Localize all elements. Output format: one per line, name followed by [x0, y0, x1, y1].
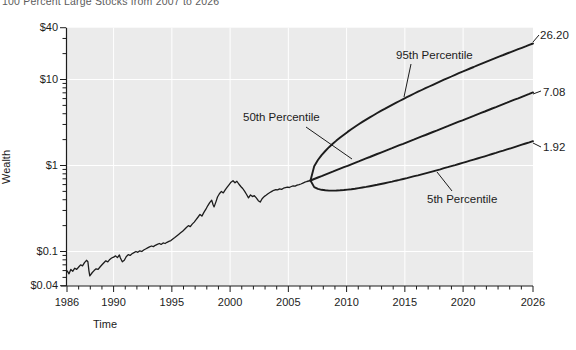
y-tick-label-10: $10	[40, 73, 58, 85]
x-tick-label-2005: 2005	[276, 296, 300, 308]
y-tick-label-1: $1	[46, 159, 58, 171]
y-tick-label-40: $40	[40, 21, 58, 33]
x-tick-label-1986: 1986	[55, 296, 79, 308]
label-5th-percentile: 5th Percentile	[427, 193, 497, 205]
x-tick-label-1990: 1990	[101, 296, 125, 308]
label-95th-percentile: 95th Percentile	[396, 49, 473, 61]
x-tick-label-2015: 2015	[393, 296, 417, 308]
y-axis-title: Wealth	[0, 137, 12, 197]
x-tick-label-2026: 2026	[521, 296, 545, 308]
end-value-50th-percentile: 7.08	[543, 86, 565, 98]
wealth-forecast-chart: 100 Percent Large Stocks from 2007 to 20…	[0, 0, 576, 350]
y-tick-label-0.04: $0.04	[30, 279, 58, 291]
y-tick-label-0.1: $0.1	[37, 245, 58, 257]
end-value-5th-percentile: 1.92	[543, 141, 565, 153]
x-tick-label-2000: 2000	[218, 296, 242, 308]
end-value-95th-percentile: 26.20	[540, 29, 569, 41]
x-tick-label-2020: 2020	[451, 296, 475, 308]
x-axis-title: Time	[93, 318, 117, 330]
x-tick-label-2010: 2010	[334, 296, 358, 308]
plot-area: 198619901995200020052010201520202026$40$…	[0, 0, 576, 350]
x-tick-label-1995: 1995	[160, 296, 184, 308]
label-50th-percentile: 50th Percentile	[243, 111, 320, 123]
